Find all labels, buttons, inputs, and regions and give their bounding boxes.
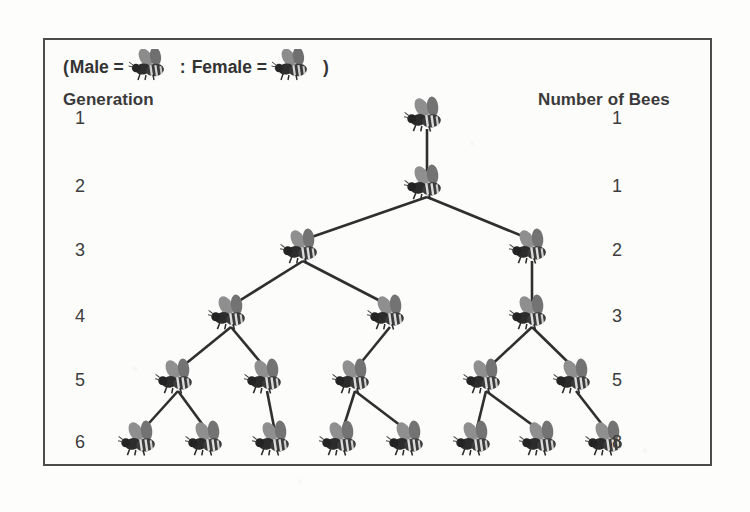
- tree-edge: [355, 391, 409, 432]
- page-background: ( Male =: [0, 0, 750, 512]
- bee-node: [453, 420, 491, 456]
- bee-node: [404, 96, 442, 132]
- bee-count-value: 2: [612, 240, 622, 261]
- tree-edge: [342, 391, 355, 432]
- generation-number: 5: [75, 370, 85, 391]
- tree-edge: [303, 261, 390, 306]
- bee-count-value: 8: [612, 432, 622, 453]
- generation-number: 3: [75, 240, 85, 261]
- generation-number: 2: [75, 176, 85, 197]
- tree-edge: [476, 391, 486, 432]
- bee-count-value: 1: [612, 108, 622, 129]
- bee-node: [118, 420, 156, 456]
- bee-count-value: 5: [612, 370, 622, 391]
- tree-edge: [178, 391, 208, 432]
- tree-edge: [486, 391, 542, 432]
- tree-edge: [267, 391, 275, 432]
- bee-count-value: 3: [612, 306, 622, 327]
- figure-frame: ( Male =: [43, 38, 712, 466]
- edge-layer: [141, 129, 608, 432]
- bee-node: [553, 358, 591, 394]
- tree-edge: [303, 197, 427, 240]
- bee-node: [519, 420, 557, 456]
- generation-number: 4: [75, 306, 85, 327]
- tree-edge: [427, 197, 532, 240]
- bee-node: [404, 164, 442, 200]
- bee-node: [509, 294, 547, 330]
- bee-node: [386, 420, 424, 456]
- generation-number: 1: [75, 108, 85, 129]
- tree-edge: [486, 327, 532, 370]
- bee-node: [280, 228, 318, 264]
- generation-number: 6: [75, 432, 85, 453]
- bee-node: [252, 420, 290, 456]
- bee-node: [332, 358, 370, 394]
- tree-edge: [231, 327, 267, 370]
- tree-edge: [355, 327, 390, 370]
- tree-edge: [576, 391, 608, 432]
- tree-edge: [178, 327, 231, 370]
- bee-count-value: 1: [612, 176, 622, 197]
- tree-edge: [231, 261, 303, 306]
- tree-edge: [141, 391, 178, 432]
- bee-node: [319, 420, 357, 456]
- bee-node: [367, 294, 405, 330]
- tree-edge: [532, 327, 576, 370]
